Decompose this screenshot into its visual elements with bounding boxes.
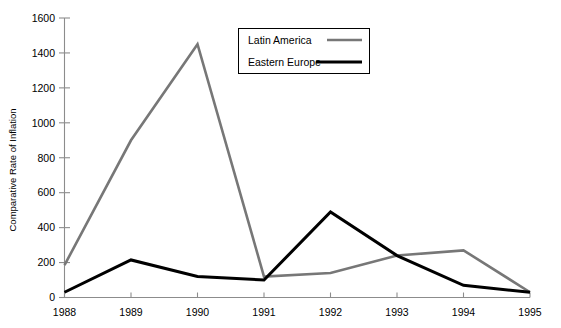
x-tick-label: 1990 [186, 306, 210, 318]
y-tick-label: 200 [37, 256, 55, 268]
x-tick-label: 1991 [252, 306, 276, 318]
y-tick-label: 1000 [32, 117, 56, 129]
series-line-eastern-europe [65, 212, 531, 292]
y-tick-label: 400 [37, 221, 55, 233]
y-axis-title: Comparative Rate of Inflation [7, 108, 18, 231]
x-tick-label: 1992 [319, 306, 343, 318]
legend-label-latin-america: Latin America [248, 34, 312, 46]
y-axis-title-group: Comparative Rate of Inflation [7, 108, 18, 231]
x-axis-tick-marks [65, 293, 531, 298]
y-tick-label: 600 [37, 186, 55, 198]
x-tick-label: 1995 [518, 306, 542, 318]
legend: Latin America Eastern Europe [239, 29, 370, 74]
x-tick-label: 1988 [53, 306, 77, 318]
y-tick-label: 1600 [32, 12, 56, 24]
x-tick-label: 1989 [119, 306, 143, 318]
y-tick-label: 1400 [32, 47, 56, 59]
series-lines-group [65, 44, 531, 292]
x-tick-label: 1994 [452, 306, 476, 318]
series-line-latin-america [65, 44, 531, 292]
y-axis-tick-labels: 02004006008001000120014001600 [32, 12, 56, 304]
y-tick-label: 800 [37, 152, 55, 164]
x-axis-tick-labels: 19881989199019911992199319941995 [53, 306, 542, 318]
legend-label-eastern-europe: Eastern Europe [248, 56, 321, 68]
y-tick-label: 1200 [32, 82, 56, 94]
inflation-line-chart: Comparative Rate of Inflation 0200400600… [0, 0, 561, 328]
x-tick-label: 1993 [385, 306, 409, 318]
chart-canvas: Comparative Rate of Inflation 0200400600… [0, 0, 561, 328]
y-tick-label: 0 [49, 291, 55, 303]
